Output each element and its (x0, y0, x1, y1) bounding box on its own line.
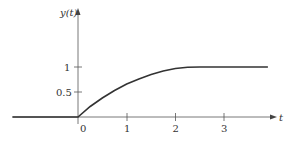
x-axis-label: t (279, 112, 284, 123)
x-tick-label-0: 0 (80, 123, 86, 134)
y-tick-label-1: 1 (64, 62, 70, 73)
x-tick-label-3: 3 (221, 123, 227, 134)
response-curve (12, 67, 268, 117)
x-tick-label-2: 2 (173, 123, 179, 134)
x-axis-arrow-icon (270, 115, 277, 120)
step-response-chart: y(t) t 0 1 2 3 1 0.5 (0, 0, 290, 142)
y-tick-label-0-5: 0.5 (56, 87, 72, 98)
x-tick-label-1: 1 (124, 123, 130, 134)
y-axis-label: y(t) (59, 7, 78, 18)
